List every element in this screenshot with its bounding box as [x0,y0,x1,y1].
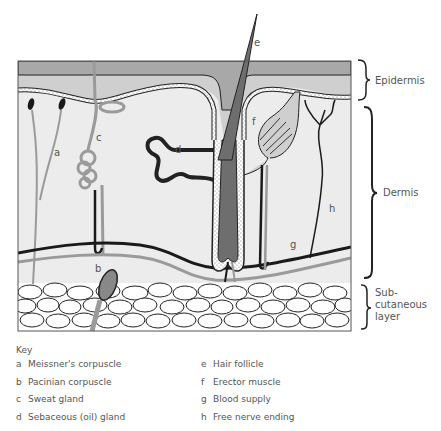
label-f: f [252,116,256,127]
layer-label-subcutaneous: Sub- cutaneous layer [375,287,430,322]
skin-cross-section-diagram: a b c d e f g h Epidermis Dermis Sub- cu… [0,0,441,345]
layer-label-dermis: Dermis [383,187,419,198]
label-g: g [290,239,296,250]
key-title: Key [16,345,436,355]
fat-cells [14,283,355,331]
label-e: e [254,37,260,48]
key-item: eHair follicle [201,359,386,377]
label-d: d [175,144,181,155]
dermis-brace [364,107,377,278]
label-a: a [54,147,60,158]
key-item: aMeissner's corpuscle [16,359,201,377]
label-c: c [96,132,102,143]
key-item: hFree nerve ending [201,412,386,430]
label-b: b [95,263,101,274]
key-item: gBlood supply [201,394,386,412]
label-h: h [329,203,335,214]
key-item: cSweat gland [16,394,201,412]
key-column-left: aMeissner's corpuscle bPacinian corpuscl… [16,359,201,429]
layer-label-epidermis: Epidermis [375,75,425,86]
subcutaneous-brace [361,285,371,329]
key-item: bPacinian corpuscle [16,377,201,395]
key-column-right: eHair follicle fErector muscle gBlood su… [201,359,386,429]
key-legend: Key aMeissner's corpuscle bPacinian corp… [16,345,436,429]
key-item: fErector muscle [201,377,386,395]
key-item: dSebaceous (oil) gland [16,412,201,430]
epidermis-brace [358,60,370,100]
